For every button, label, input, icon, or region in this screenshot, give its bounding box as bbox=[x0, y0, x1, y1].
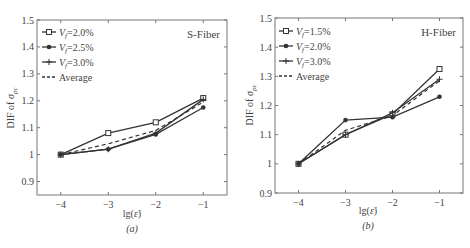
y-tick-label: 1.4 bbox=[260, 42, 273, 53]
x-tick-label: −2 bbox=[387, 197, 398, 208]
fiber-annotation: H-Fiber bbox=[421, 26, 456, 38]
dot-marker bbox=[343, 118, 348, 123]
y-tick-label: 0.9 bbox=[260, 188, 273, 199]
legend-entry: Average bbox=[59, 72, 93, 83]
dot-marker bbox=[47, 45, 52, 50]
legend-entry: Vf=2.0% bbox=[296, 41, 331, 54]
plus-marker bbox=[46, 59, 52, 65]
x-axis-label: lg(ε̇) bbox=[123, 208, 141, 220]
series-line bbox=[299, 69, 440, 164]
y-tick-label: 1.5 bbox=[260, 13, 273, 24]
legend-entry: Vf=3.0% bbox=[296, 56, 331, 69]
x-tick-label: −4 bbox=[55, 199, 66, 210]
square-marker bbox=[284, 29, 289, 34]
y-axis-label: DIF of σpc bbox=[5, 87, 19, 129]
square-marker bbox=[47, 30, 52, 35]
y-tick-label: 0.9 bbox=[22, 176, 35, 187]
y-tick-label: 1.3 bbox=[22, 68, 35, 79]
x-tick-label: −1 bbox=[198, 199, 209, 210]
legend-entry: Vf=3.0% bbox=[59, 57, 94, 70]
series-line bbox=[299, 97, 440, 164]
y-tick-label: 1.1 bbox=[260, 129, 273, 140]
legend-entry: Vf=2.5% bbox=[59, 42, 94, 55]
y-tick-label: 1.4 bbox=[22, 41, 35, 52]
y-axis-ticks: 0.911.11.21.31.41.5 bbox=[260, 13, 464, 199]
x-tick-label: −1 bbox=[434, 197, 445, 208]
data-series bbox=[58, 96, 207, 158]
figure: 0.911.11.21.31.41.5 −4−3−2−1 Vf=2.0%Vf=2… bbox=[0, 0, 470, 248]
y-tick-label: 1.5 bbox=[22, 15, 35, 26]
x-tick-label: −4 bbox=[293, 197, 304, 208]
y-axis-label: DIF of σpc bbox=[244, 84, 258, 126]
chart-panel-b: 0.911.11.21.31.41.5 −4−3−2−1 Vf=1.5%Vf=2… bbox=[244, 13, 463, 233]
fiber-annotation: S-Fiber bbox=[187, 28, 220, 40]
series-line bbox=[299, 79, 440, 164]
series-line bbox=[61, 99, 204, 154]
y-tick-label: 1 bbox=[29, 149, 34, 160]
panel-label: (b) bbox=[362, 220, 374, 232]
legend-entry: Vf=2.0% bbox=[59, 27, 94, 40]
chart-panel-a: 0.911.11.21.31.41.5 −4−3−2−1 Vf=2.0%Vf=2… bbox=[5, 15, 227, 236]
x-tick-label: −2 bbox=[150, 199, 161, 210]
legend: Vf=2.0%Vf=2.5%Vf=3.0%Average bbox=[42, 27, 94, 83]
legend: Vf=1.5%Vf=2.0%Vf=3.0%Average bbox=[279, 26, 331, 82]
legend-entry: Average bbox=[296, 71, 330, 82]
dot-marker bbox=[437, 94, 442, 99]
square-marker bbox=[106, 131, 111, 136]
y-tick-label: 1.3 bbox=[260, 71, 273, 82]
y-axis-ticks: 0.911.11.21.31.41.5 bbox=[22, 15, 228, 188]
panel-label: (a) bbox=[126, 223, 138, 235]
y-tick-label: 1.2 bbox=[22, 95, 35, 106]
y-tick-label: 1.2 bbox=[260, 100, 273, 111]
plus-marker bbox=[283, 58, 289, 64]
dot-marker bbox=[284, 44, 289, 49]
series-line bbox=[61, 98, 204, 155]
square-marker bbox=[437, 67, 442, 72]
dot-marker bbox=[201, 105, 206, 110]
y-tick-label: 1 bbox=[267, 158, 272, 169]
x-tick-label: −3 bbox=[103, 199, 114, 210]
y-tick-label: 1.1 bbox=[22, 122, 35, 133]
plus-marker bbox=[105, 146, 111, 152]
square-marker bbox=[153, 120, 158, 125]
x-axis-label: lg(ε̇) bbox=[359, 205, 377, 217]
data-series bbox=[296, 67, 443, 167]
x-tick-label: −3 bbox=[340, 197, 351, 208]
legend-entry: Vf=1.5% bbox=[296, 26, 331, 39]
